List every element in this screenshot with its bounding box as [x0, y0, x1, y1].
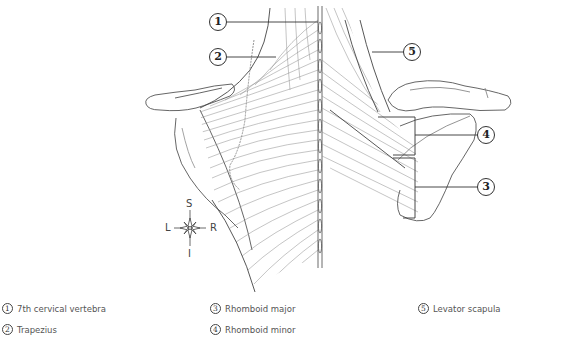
back-muscles-drawing: [0, 0, 562, 300]
callout-1: 1: [209, 13, 227, 31]
legend-number: 1: [2, 303, 13, 314]
levator-scapula-outline: [330, 20, 405, 168]
legend-number: 3: [210, 303, 221, 314]
legend-label: Rhomboid minor: [225, 325, 296, 335]
legend: 1 7th cervical vertebra 2 Trapezius 3 Rh…: [0, 300, 562, 355]
compass-inferior-label: I: [188, 248, 191, 259]
right-clavicle: [388, 81, 511, 111]
callout-5: 5: [403, 43, 421, 61]
callout-3: 3: [477, 178, 495, 196]
right-deep-muscle-fibers: [322, 8, 418, 212]
legend-item-1: 1 7th cervical vertebra: [2, 303, 106, 314]
legend-item-5: 5 Levator scapula: [418, 303, 500, 314]
left-clavicle: [146, 84, 235, 111]
anatomy-illustration: 1 2 5 4 3 S I L R: [0, 0, 562, 300]
compass-right-label: R: [210, 222, 217, 233]
legend-number: 4: [210, 324, 221, 335]
legend-label: Trapezius: [17, 325, 57, 335]
callout-2: 2: [209, 48, 227, 66]
compass-superior-label: S: [186, 198, 192, 209]
compass-rose-icon: [174, 210, 206, 246]
legend-number: 5: [418, 303, 429, 314]
legend-label: Rhomboid major: [225, 304, 295, 314]
callout-4: 4: [477, 126, 495, 144]
legend-number: 2: [2, 324, 13, 335]
leader-lines: [227, 22, 478, 218]
vertebral-column: [318, 6, 322, 268]
legend-label: Levator scapula: [433, 304, 500, 314]
legend-label: 7th cervical vertebra: [17, 304, 106, 314]
compass-left-label: L: [165, 222, 171, 233]
legend-item-4: 4 Rhomboid minor: [210, 324, 296, 335]
legend-item-3: 3 Rhomboid major: [210, 303, 295, 314]
legend-item-2: 2 Trapezius: [2, 324, 57, 335]
